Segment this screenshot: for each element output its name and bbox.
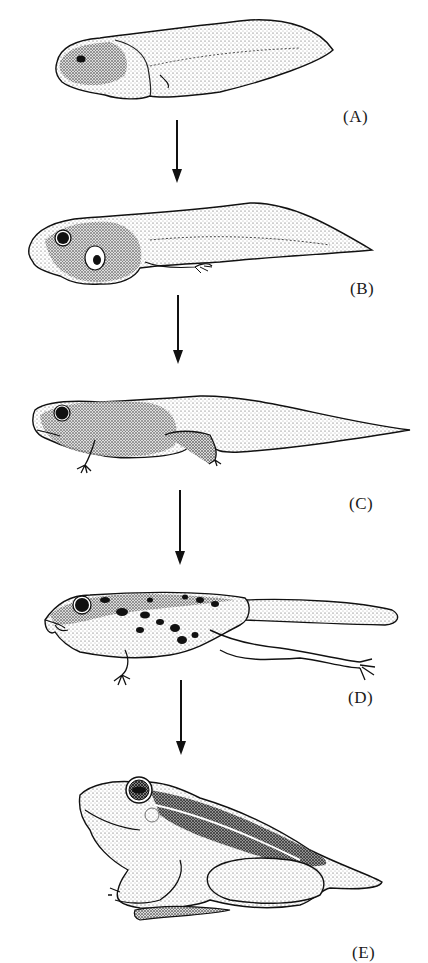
arrow-head-icon bbox=[173, 350, 183, 364]
froglet-illustration bbox=[0, 580, 428, 700]
stage-label-d: (D) bbox=[348, 688, 373, 708]
arrow-head-icon bbox=[172, 169, 182, 183]
stage-label-e: (E) bbox=[352, 943, 375, 963]
adult-frog-illustration bbox=[0, 760, 428, 957]
arrow-shaft bbox=[179, 490, 181, 552]
stage-b: (B) bbox=[0, 190, 428, 300]
stage-label-c: (C) bbox=[349, 494, 373, 514]
arrow-a-to-b bbox=[172, 120, 182, 183]
stage-e: (E) bbox=[0, 760, 428, 957]
stage-label-a: (A) bbox=[343, 107, 368, 127]
arrow-b-to-c bbox=[173, 295, 183, 365]
arrow-head-icon bbox=[176, 741, 186, 755]
arrow-shaft bbox=[176, 120, 178, 170]
stage-a: (A) bbox=[0, 0, 428, 130]
arrow-d-to-e bbox=[176, 680, 186, 755]
stage-d: (D) bbox=[0, 580, 428, 700]
arrow-c-to-d bbox=[175, 490, 185, 565]
arrow-shaft bbox=[180, 680, 182, 742]
stage-c: (C) bbox=[0, 390, 428, 500]
arrow-shaft bbox=[177, 295, 179, 351]
arrow-head-icon bbox=[175, 551, 185, 565]
tadpole-legs-illustration bbox=[0, 390, 428, 500]
stage-label-b: (B) bbox=[350, 279, 374, 299]
